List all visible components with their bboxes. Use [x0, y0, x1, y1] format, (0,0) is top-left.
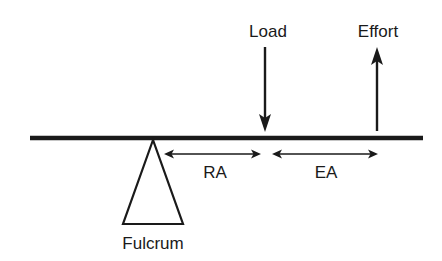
- fulcrum-label: Fulcrum: [122, 234, 183, 253]
- load-label: Load: [249, 22, 287, 41]
- effort-label: Effort: [358, 22, 399, 41]
- resistance-arm-label: RA: [203, 163, 227, 182]
- load-arrow-icon: [259, 47, 271, 132]
- effort-arrow-icon: [371, 47, 383, 131]
- lever-diagram-svg: Load Effort RA EA Fulcrum: [0, 0, 442, 261]
- effort-arm-arrow-icon: [272, 150, 378, 159]
- resistance-arm-arrow-icon: [164, 150, 261, 159]
- fulcrum-triangle: [123, 140, 183, 224]
- effort-arm-label: EA: [315, 163, 338, 182]
- lever-diagram: Load Effort RA EA Fulcrum: [0, 0, 442, 261]
